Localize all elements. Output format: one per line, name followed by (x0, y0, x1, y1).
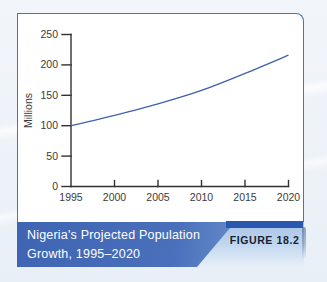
x-tick-label: 2020 (277, 191, 301, 203)
caption-band: Nigeria's Projected Population Growth, 1… (17, 222, 304, 267)
y-axis-title: Millions (22, 93, 34, 128)
page-edge-shadow (302, 227, 306, 259)
figure-caption: Nigeria's Projected Population Growth, 1… (27, 226, 200, 264)
chart-panel: 050100150200250199520002005201020152020M… (17, 13, 304, 222)
population-curve (71, 55, 289, 126)
y-tick-label: 0 (52, 180, 58, 192)
figure-box: 050100150200250199520002005201020152020M… (17, 13, 304, 267)
x-tick-label: 2015 (233, 191, 257, 203)
x-tick-label: 1995 (59, 191, 83, 203)
figure-number-bar (226, 221, 303, 228)
population-line-chart: 050100150200250199520002005201020152020M… (18, 14, 305, 223)
caption-line-2: Growth, 1995–2020 (27, 245, 200, 264)
x-tick-label: 2000 (103, 191, 127, 203)
y-tick-label: 250 (40, 28, 58, 40)
x-tick-label: 2010 (190, 191, 214, 203)
y-tick-label: 200 (40, 58, 58, 70)
y-tick-label: 50 (46, 150, 58, 162)
y-tick-label: 100 (40, 119, 58, 131)
caption-line-1: Nigeria's Projected Population (27, 226, 200, 245)
y-tick-label: 150 (40, 89, 58, 101)
figure-number-label: FIGURE 18.2 (225, 234, 305, 246)
x-tick-label: 2005 (146, 191, 170, 203)
